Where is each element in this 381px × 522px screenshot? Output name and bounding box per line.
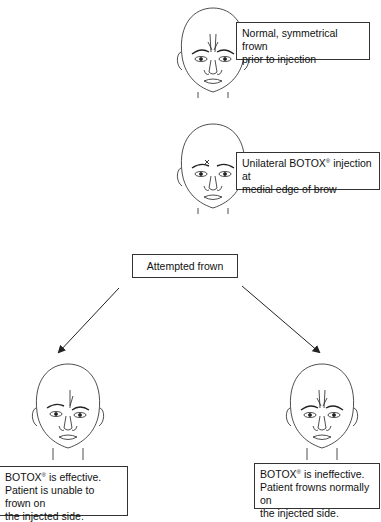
outcome-effective-line3: the injected side. — [5, 510, 122, 522]
face-effective-icon — [23, 360, 113, 460]
step-injection-box: Unilateral BOTOX® injection at medial ed… — [236, 152, 380, 190]
step-baseline-box: Normal, symmetrical frown prior to injec… — [236, 22, 370, 60]
step-test-label: Attempted frown — [147, 260, 223, 272]
step-injection-line2: medial edge of brow — [242, 183, 374, 196]
outcome-effective-line1: BOTOX® is effective. — [5, 471, 122, 484]
outcome-ineffective-box: BOTOX® is ineffective. Patient frowns no… — [254, 463, 380, 509]
arrow-to-effective — [59, 288, 119, 352]
outcome-effective-box: BOTOX® is effective. Patient is unable t… — [0, 466, 128, 516]
step-test-box: Attempted frown — [132, 254, 238, 278]
arrow-to-ineffective — [242, 286, 319, 352]
outcome-ineffective-line1: BOTOX® is ineffective. — [260, 468, 374, 481]
outcome-ineffective-line3: the injected side. — [260, 507, 374, 520]
step-baseline-line1: Normal, symmetrical frown — [242, 27, 364, 53]
face-ineffective-icon — [277, 360, 367, 460]
step-injection-line1: Unilateral BOTOX® injection at — [242, 157, 374, 183]
step-baseline-line2: prior to injection — [242, 53, 364, 66]
outcome-ineffective-line2: Patient frowns normally on — [260, 481, 374, 507]
outcome-effective-line2: Patient is unable to frown on — [5, 484, 122, 510]
